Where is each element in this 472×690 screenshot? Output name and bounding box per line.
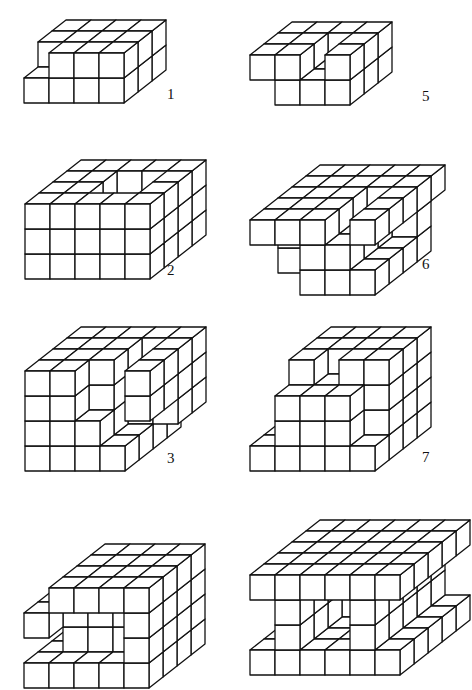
figure-label-6: 6 — [422, 256, 430, 273]
figure-label-1: 1 — [167, 86, 175, 103]
figure-label-5: 5 — [422, 88, 430, 105]
figure-7 — [248, 325, 433, 473]
cube-figure-4 — [22, 542, 207, 690]
cube-figure-2 — [23, 158, 208, 281]
figure-2 — [23, 158, 208, 281]
cube-figure-1 — [22, 18, 168, 105]
figure-8 — [248, 518, 472, 677]
figure-label-3: 3 — [167, 450, 175, 467]
figure-3 — [23, 325, 208, 473]
figure-label-2: 2 — [167, 262, 175, 279]
figure-6 — [248, 163, 447, 297]
cube-figure-7 — [248, 325, 433, 473]
cube-figure-5 — [248, 20, 394, 107]
cube-figure-3 — [23, 325, 208, 473]
figure-label-7: 7 — [422, 449, 430, 466]
figure-4 — [22, 542, 207, 690]
figure-1 — [22, 18, 168, 105]
cube-figure-6 — [248, 163, 447, 297]
figure-5 — [248, 20, 394, 107]
cube-figure-8 — [248, 518, 472, 677]
